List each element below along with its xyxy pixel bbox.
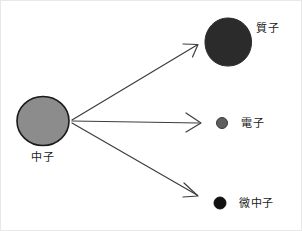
- proton-particle: [205, 18, 252, 66]
- arrow-to-neutrino: [72, 123, 198, 197]
- arrow-to-electron: [72, 113, 201, 132]
- electron-label: 電子: [241, 118, 264, 129]
- neutrino-particle: [214, 197, 226, 209]
- arrow-to-proton-shaft: [72, 45, 197, 120]
- neutron-particle: [17, 97, 69, 146]
- neutron-decay-diagram: 質子 電子 微中子 中子: [0, 0, 302, 231]
- neutron-label: 中子: [31, 152, 54, 163]
- arrow-to-electron-shaft: [72, 121, 199, 123]
- proton-label: 質子: [256, 23, 279, 34]
- electron-particle: [217, 118, 228, 129]
- neutrino-label: 微中子: [239, 198, 274, 209]
- arrow-to-neutrino-shaft: [72, 123, 197, 195]
- arrow-to-proton: [72, 44, 198, 120]
